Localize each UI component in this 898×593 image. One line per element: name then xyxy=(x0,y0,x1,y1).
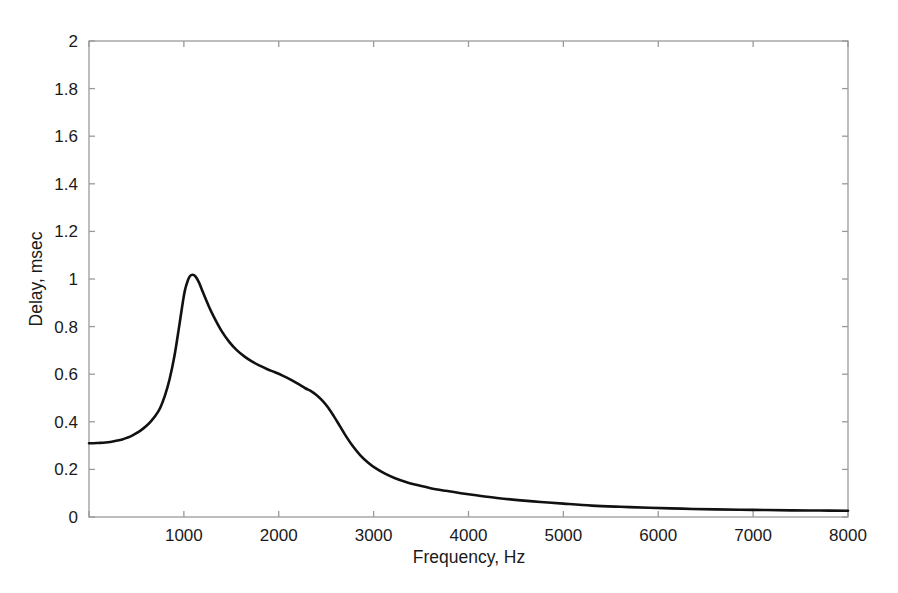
chart-plot: 10002000300040005000600070008000 00.20.4… xyxy=(0,0,898,593)
x-tick-label: 4000 xyxy=(450,526,488,545)
figure-background xyxy=(0,0,898,593)
x-tick-label: 7000 xyxy=(734,526,772,545)
x-tick-label: 8000 xyxy=(829,526,867,545)
x-tick-label: 2000 xyxy=(260,526,298,545)
y-tick-label: 2 xyxy=(69,32,78,51)
y-tick-label: 0.4 xyxy=(54,413,78,432)
y-tick-label: 1.6 xyxy=(54,127,78,146)
x-tick-label: 1000 xyxy=(165,526,203,545)
y-tick-label: 1.4 xyxy=(54,175,78,194)
x-axis-title: Frequency, Hz xyxy=(413,547,526,567)
figure-container: 10002000300040005000600070008000 00.20.4… xyxy=(0,0,898,593)
y-tick-label: 1.2 xyxy=(54,222,78,241)
x-tick-label: 3000 xyxy=(355,526,393,545)
y-tick-label: 1 xyxy=(69,270,78,289)
x-tick-label: 6000 xyxy=(639,526,677,545)
y-tick-label: 0.8 xyxy=(54,318,78,337)
y-tick-label: 0.2 xyxy=(54,460,78,479)
x-tick-label: 5000 xyxy=(544,526,582,545)
y-tick-label: 0.6 xyxy=(54,365,78,384)
y-axis-title: Delay, msec xyxy=(26,231,46,326)
y-tick-label: 0 xyxy=(69,508,78,527)
y-tick-label: 1.8 xyxy=(54,80,78,99)
